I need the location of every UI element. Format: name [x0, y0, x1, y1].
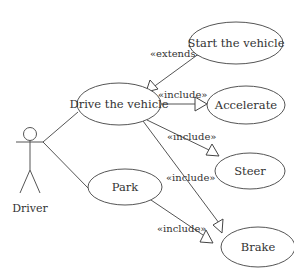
association-driver-drive — [43, 112, 78, 142]
use-case-steer[interactable]: Steer — [215, 153, 285, 189]
association-driver-park — [43, 142, 88, 188]
use-case-label: Steer — [234, 164, 266, 178]
actor-label: Driver — [12, 202, 48, 215]
use-case-label: Accelerate — [214, 98, 277, 112]
use-case-label: Start the vehicle — [188, 36, 285, 50]
include-label-steer: «include» — [167, 131, 216, 142]
use-case-start-the-vehicle[interactable]: Start the vehicle — [188, 22, 285, 64]
actor-left-leg — [20, 170, 30, 193]
include-label-drive-brake: «include» — [166, 172, 215, 183]
use-case-diagram: Driver «extends» «include» «include» «in… — [0, 0, 294, 279]
use-case-label: Park — [112, 180, 140, 194]
use-case-label: Brake — [241, 240, 276, 254]
actor-right-leg — [30, 170, 40, 193]
include-label-park-brake: «include» — [157, 223, 206, 234]
use-case-label: Drive the vehicle — [69, 97, 168, 111]
actor-driver[interactable]: Driver — [12, 128, 48, 216]
actor-head — [24, 128, 37, 141]
use-case-brake[interactable]: Brake — [221, 227, 294, 267]
use-case-park[interactable]: Park — [88, 169, 162, 205]
use-case-accelerate[interactable]: Accelerate — [207, 86, 285, 124]
